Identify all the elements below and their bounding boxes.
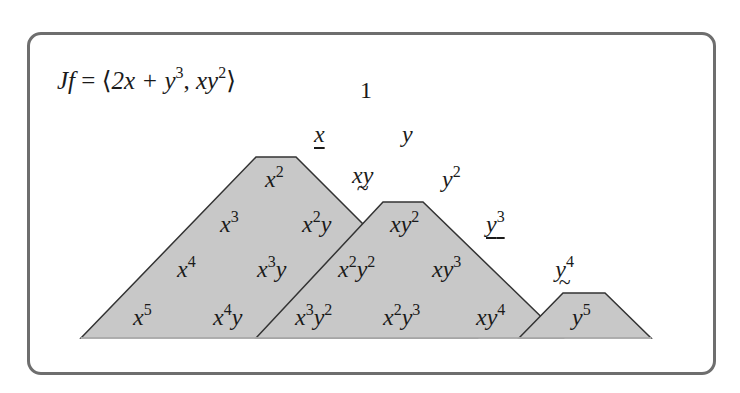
- monomial-xy2: xy2: [390, 212, 419, 236]
- monomial-x3: x3: [220, 212, 239, 236]
- monomial-y: y: [402, 122, 413, 146]
- formula-lhs: Jf: [57, 67, 75, 94]
- monomial-y2: y2: [442, 167, 461, 191]
- monomial-x5: x5: [133, 305, 152, 329]
- formula-rbracket: ⟩: [226, 67, 236, 94]
- ideal-cones: [0, 0, 740, 393]
- formula-eq: =: [81, 67, 95, 94]
- monomial-x-underlined: x: [314, 122, 325, 146]
- monomial-xy3: xy3: [432, 257, 461, 281]
- formula-term2: xy: [196, 67, 218, 94]
- formula-term1-exp: 3: [175, 64, 183, 81]
- monomial-xy-tilde: xy: [352, 163, 373, 187]
- monomial-x3y: x3y: [257, 257, 286, 281]
- monomial-x2y: x2y: [302, 212, 331, 236]
- monomial-x4: x4: [177, 257, 196, 281]
- formula-term1: 2x + y: [111, 67, 175, 94]
- monomial-x2: x2: [265, 167, 284, 191]
- monomial-x4y: x4y: [213, 305, 242, 329]
- formula-term2-exp: 2: [218, 64, 226, 81]
- monomial-x3y2: x3y2: [295, 305, 332, 329]
- monomial-y3-underlined: y3: [486, 212, 505, 236]
- monomial-x2y3: x2y3: [383, 305, 420, 329]
- monomial-1: 1: [360, 78, 372, 102]
- jacobian-formula: Jf = ⟨2x + y3, xy2⟩: [57, 68, 236, 93]
- monomial-xy4: xy4: [476, 305, 505, 329]
- monomial-y5: y5: [572, 305, 591, 329]
- monomial-y4-tilde: y4: [555, 257, 574, 281]
- formula-lbracket: ⟨: [102, 67, 112, 94]
- formula-sep: ,: [183, 67, 189, 94]
- monomial-x2y2: x2y2: [338, 257, 375, 281]
